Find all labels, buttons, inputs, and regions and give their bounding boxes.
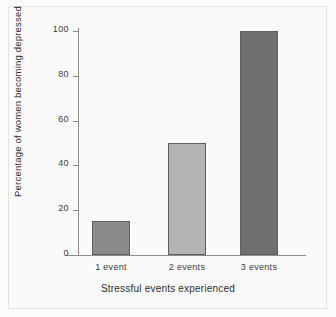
bar (240, 31, 278, 255)
y-axis-tick-label: 100 (53, 24, 69, 34)
y-axis-tick-label: 40 (58, 158, 69, 168)
x-axis-tick-label: 1 event (71, 262, 151, 272)
bar (92, 221, 130, 255)
y-axis-tick-label: 0 (64, 248, 69, 258)
x-axis-tick-label: 3 events (219, 262, 299, 272)
y-axis-tick-mark (73, 76, 78, 77)
y-axis-tick-mark (73, 121, 78, 122)
x-axis-title: Stressful events experienced (0, 283, 336, 294)
y-axis-tick-mark (73, 255, 78, 256)
figure-container: 020406080100 1 event2 events3 events Per… (0, 0, 336, 317)
x-axis-line (66, 255, 306, 256)
bar (168, 143, 206, 255)
x-axis-tick-label: 2 events (147, 262, 227, 272)
y-axis-tick-mark (73, 31, 78, 32)
y-axis-tick-mark (73, 165, 78, 166)
y-axis-tick-label: 80 (58, 69, 69, 79)
y-axis-tick-label: 60 (58, 114, 69, 124)
y-axis-tick-mark (73, 210, 78, 211)
y-axis-tick-label: 20 (58, 203, 69, 213)
plot-area: 020406080100 (78, 31, 298, 255)
y-axis-title: Percentage of women becoming depressed (12, 0, 23, 207)
